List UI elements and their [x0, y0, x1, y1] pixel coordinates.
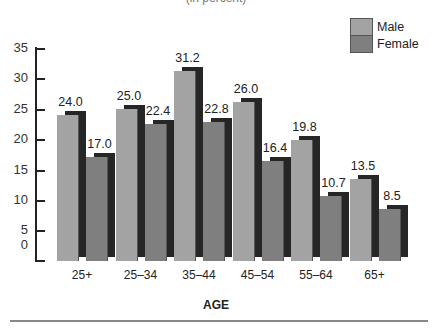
- legend-label-female: Female: [377, 37, 419, 51]
- value-label: 16.4: [255, 141, 295, 155]
- value-label: 17.0: [80, 137, 120, 151]
- y-tick: [35, 230, 45, 232]
- x-category-label: 25–34: [111, 268, 171, 282]
- y-tick: [35, 200, 45, 202]
- value-label: 19.8: [285, 120, 325, 134]
- value-label: 22.8: [197, 102, 237, 116]
- y-tick: [35, 170, 45, 172]
- value-label: 8.5: [372, 189, 412, 203]
- bar-male: [233, 102, 255, 261]
- y-tick: [35, 109, 45, 111]
- bar-female: [320, 196, 342, 261]
- value-label: 31.2: [168, 51, 208, 65]
- value-label: 22.4: [138, 104, 178, 118]
- y-tick-label: 10: [2, 192, 28, 207]
- value-label: 25.0: [109, 89, 149, 103]
- value-label: 24.0: [51, 95, 91, 109]
- x-category-label: 45–54: [228, 268, 288, 282]
- value-label: 10.7: [314, 176, 354, 190]
- bar-female: [379, 209, 401, 261]
- x-category-label: 65+: [345, 268, 405, 282]
- y-tick-label: 5: [2, 222, 28, 237]
- x-axis-label: AGE: [0, 298, 432, 312]
- bar-female: [262, 161, 284, 261]
- bar-chart: (in percent) 35302520151050 24.017.025.0…: [0, 0, 432, 329]
- legend-swatch-male: [350, 18, 373, 36]
- x-category-label: 55–64: [286, 268, 346, 282]
- value-label: 26.0: [226, 82, 266, 96]
- bottom-divider: [10, 320, 428, 322]
- chart-title: (in percent): [0, 0, 432, 5]
- y-tick-label: 25: [2, 101, 28, 116]
- y-tick-label: 30: [2, 70, 28, 85]
- bar-female: [203, 122, 225, 261]
- bar-male: [57, 115, 79, 261]
- bar-male: [291, 140, 313, 261]
- value-label: 13.5: [343, 159, 383, 173]
- bar-male: [350, 179, 372, 261]
- bar-female: [86, 157, 108, 261]
- y-tick: [35, 78, 45, 80]
- legend-label-male: Male: [377, 20, 404, 34]
- y-tick: [35, 48, 45, 50]
- x-category-label: 25+: [52, 268, 112, 282]
- bar-male: [116, 109, 138, 262]
- y-tick: [35, 139, 45, 141]
- legend-swatch-female: [350, 35, 373, 53]
- y-tick-label: 35: [2, 40, 28, 55]
- bar-male: [174, 71, 196, 261]
- y-tick-label: 20: [2, 131, 28, 146]
- bar-female: [145, 124, 167, 261]
- y-tick-label: 0: [2, 237, 28, 252]
- x-category-label: 35–44: [169, 268, 229, 282]
- y-tick-label: 15: [2, 162, 28, 177]
- y-tick: [35, 260, 45, 262]
